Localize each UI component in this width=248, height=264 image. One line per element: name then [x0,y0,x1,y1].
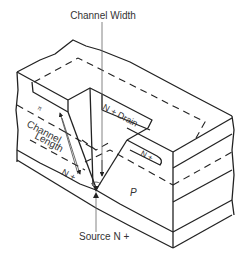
channel-length-arrow-down [62,118,80,174]
block-right-face [173,116,234,248]
drain-label: N + Drain [101,102,139,129]
source-point [91,182,101,232]
vmos-diagram: Channel Width N + Drain π Channel Length… [0,0,248,264]
n-plus-left-label: N + [60,167,77,183]
channel-width-label: Channel Width [70,10,136,21]
block-top-face [17,40,232,116]
pi-mark: π [37,105,43,112]
right-top-edge [173,118,232,152]
source-label: Source N + [79,231,129,242]
p-region-label: P [130,187,137,198]
